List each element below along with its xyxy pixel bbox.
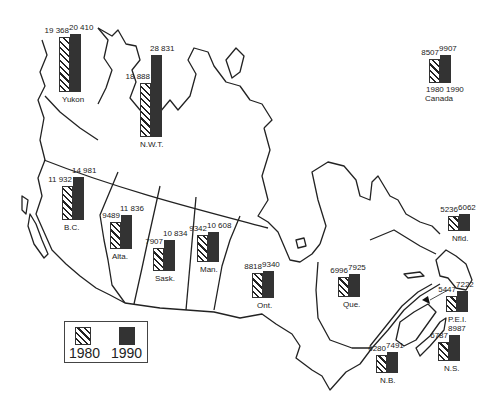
region-label: B.C.: [64, 223, 80, 232]
bar-group-man: 934210 608Man.: [197, 232, 219, 262]
value-label-1990: 14 981: [72, 166, 96, 175]
bar-group-alta: 948911 836Alta.: [110, 215, 132, 249]
value-label-1980: 19 368: [45, 26, 69, 35]
legend: 1980 1990: [64, 321, 148, 363]
arctic-coast: [98, 28, 272, 128]
value-label-1980: 11 932: [48, 175, 72, 184]
value-label-1980: 5236: [440, 205, 458, 214]
bar-1990: [73, 177, 84, 220]
bar-group-yukon: 19 36820 410Yukon: [59, 34, 81, 92]
bar-1980: [338, 277, 349, 297]
value-label-1990: 20 410: [69, 23, 93, 32]
region-label: N.B.: [380, 376, 396, 385]
bar-1990: [70, 34, 81, 92]
bar-1990: [263, 271, 274, 298]
bar-1980: [140, 83, 151, 137]
value-label-1990: 9340: [262, 260, 280, 269]
value-label-1990: 6062: [458, 203, 476, 212]
bar-group-bc: 11 93214 981B.C.: [62, 177, 84, 220]
legend-swatch-1990: [119, 327, 135, 345]
canada-year-labels: 1980 1990: [426, 85, 464, 94]
anticosti-island: [404, 272, 424, 278]
bar-1990: [164, 240, 175, 271]
value-label-1990: 10 608: [207, 221, 231, 230]
value-label-1990: 28 831: [150, 44, 174, 53]
bar-group-sask: 790710 834Sask.: [153, 240, 175, 271]
region-label: Ont.: [257, 301, 272, 310]
value-label-1990: 10 834: [163, 229, 187, 238]
bar-1990: [449, 335, 460, 361]
value-label-1990: 7222: [456, 280, 474, 289]
vancouver-island: [28, 214, 48, 258]
labrador-border: [370, 230, 436, 254]
value-label-1980: 9342: [189, 224, 207, 233]
bar-1980: [429, 59, 440, 83]
region-label: Que.: [343, 300, 360, 309]
bar-1980: [153, 248, 164, 271]
bar-1980: [438, 342, 449, 361]
region-label: Canada: [425, 94, 453, 103]
value-label-1990: 8987: [448, 324, 466, 333]
bar-group-nb: 62807491N.B.: [376, 352, 398, 373]
lake-1: [296, 238, 306, 248]
value-label-1980: 6280: [368, 344, 386, 353]
bar-1990: [121, 215, 132, 249]
bar-1980: [446, 296, 457, 312]
queen-charlotte: [22, 196, 28, 214]
bar-1980: [59, 37, 70, 92]
value-label-1980: 18 888: [126, 72, 150, 81]
value-label-1980: 7907: [145, 237, 163, 246]
value-label-1990: 7925: [348, 263, 366, 272]
arctic-island: [226, 48, 244, 78]
bar-1980: [448, 216, 459, 231]
bar-group-que: 69967925Que.: [338, 274, 360, 297]
region-label: N.W.T.: [140, 140, 164, 149]
bar-1990: [151, 55, 162, 137]
bar-group-nfld: 52366062Nfld.: [448, 214, 470, 231]
southern-border: [125, 303, 372, 390]
value-label-1980: 9489: [102, 211, 120, 220]
hudson-bay-coast: [258, 128, 320, 262]
value-label-1980: 5447: [438, 285, 456, 294]
bar-1980: [252, 273, 263, 298]
legend-swatch-1980: [75, 327, 91, 345]
bar-group-nwt: 18 88828 831N.W.T.: [140, 55, 162, 137]
bar-1990: [349, 274, 360, 297]
legend-label-1990: 1990: [111, 345, 142, 361]
region-label: Man.: [200, 265, 218, 274]
value-label-1990: 11 836: [120, 204, 144, 213]
bar-1990: [459, 214, 470, 231]
region-label: Nfld.: [452, 234, 468, 243]
bar-group-ns: 67878987N.S.: [438, 335, 460, 361]
man-ont-border: [214, 216, 240, 310]
bar-group-ont: 88189340Ont.: [252, 271, 274, 298]
bar-1990: [387, 352, 398, 373]
st-lawrence-2: [370, 284, 432, 346]
value-label-1980: 8818: [244, 262, 262, 271]
legend-label-1980: 1980: [69, 345, 100, 361]
region-label: Sask.: [155, 274, 175, 283]
bar-1990: [440, 55, 451, 83]
region-label: N.S.: [444, 364, 460, 373]
bar-1980: [62, 186, 73, 220]
value-label-1980: 8507: [421, 48, 439, 57]
yukon-east-border: [98, 28, 112, 104]
bar-group-pei: 54477222P.E.I.: [446, 291, 468, 312]
value-label-1990: 7491: [386, 341, 404, 350]
value-label-1980: 6787: [430, 331, 448, 340]
pei-marker: [422, 296, 430, 304]
bar-group-canada: 850799071980 1990Canada: [429, 55, 451, 83]
region-label: P.E.I.: [448, 315, 467, 324]
bar-1980: [376, 355, 387, 373]
bar-1990: [208, 232, 219, 262]
region-label: Yukon: [62, 95, 84, 104]
sask-man-border: [186, 197, 196, 310]
value-label-1980: 6996: [330, 266, 348, 275]
bar-1990: [457, 291, 468, 312]
bar-1980: [197, 235, 208, 262]
quebec-outline: [312, 162, 440, 244]
value-label-1990: 9907: [439, 44, 457, 53]
bar-1980: [110, 222, 121, 249]
region-label: Alta.: [112, 252, 128, 261]
